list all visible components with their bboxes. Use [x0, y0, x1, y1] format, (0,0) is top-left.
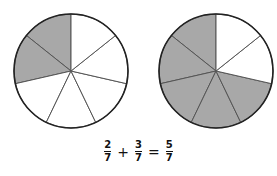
- numerator: 5: [166, 140, 173, 150]
- denominator: 7: [135, 153, 142, 163]
- fraction-three-sevenths: 3 7: [135, 140, 142, 163]
- equals-sign: =: [148, 144, 160, 160]
- pie-five-sevenths: [159, 14, 273, 128]
- fraction-pies: [0, 0, 277, 135]
- fraction-five-sevenths: 5 7: [166, 140, 173, 163]
- fraction-two-sevenths: 2 7: [104, 140, 111, 163]
- numerator: 3: [135, 140, 142, 150]
- denominator: 7: [166, 153, 173, 163]
- fraction-equation: 2 7 + 3 7 = 5 7: [0, 140, 277, 163]
- pie-two-sevenths: [14, 14, 128, 128]
- numerator: 2: [104, 140, 111, 150]
- plus-sign: +: [117, 144, 129, 160]
- denominator: 7: [104, 153, 111, 163]
